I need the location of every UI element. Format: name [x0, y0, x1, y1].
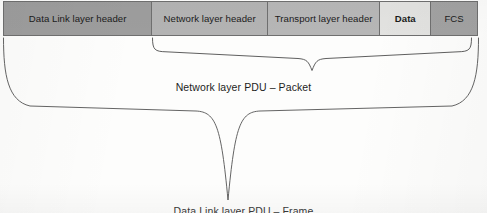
frame-row: Data Link layer header Network layer hea… — [3, 1, 478, 36]
data-link-layer-pdu-brace — [4, 38, 479, 200]
network-layer-pdu-label: Network layer PDU – Packet — [0, 81, 487, 93]
data-link-layer-pdu-label-clip: Data Link layer PDU – Frame — [0, 206, 487, 213]
frame-cell-transport-layer-header: Transport layer header — [268, 2, 381, 35]
network-layer-pdu-brace — [153, 38, 472, 71]
frame-cell-data-link-layer-header: Data Link layer header — [4, 2, 152, 35]
frame-cell-data: Data — [380, 2, 431, 35]
frame-cell-network-layer-header: Network layer header — [152, 2, 268, 35]
data-link-layer-pdu-label: Data Link layer PDU – Frame — [0, 206, 487, 213]
frame-cell-fcs: FCS — [431, 2, 477, 35]
pdu-encapsulation-figure: Data Link layer header Network layer hea… — [0, 0, 487, 213]
